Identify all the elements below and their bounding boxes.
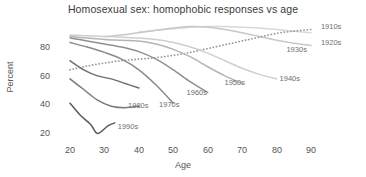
series-label: 1920s	[321, 38, 341, 47]
series-line	[70, 61, 139, 88]
chart-container: Homosexual sex: homophobic responses vs …	[0, 0, 366, 177]
series-label: 1990s	[118, 122, 138, 131]
series-label: 1980s	[128, 101, 148, 110]
series-label: 1930s	[286, 45, 306, 54]
series-line	[70, 35, 277, 79]
series-label: 1970s	[159, 100, 179, 109]
series-line	[70, 43, 173, 104]
series-line	[70, 103, 115, 133]
series-label: 1960s	[187, 88, 207, 97]
series-label: 1940s	[280, 74, 300, 83]
series-label: 1910s	[321, 22, 341, 31]
plot-area	[0, 0, 366, 177]
series-label: 1950s	[224, 78, 244, 87]
